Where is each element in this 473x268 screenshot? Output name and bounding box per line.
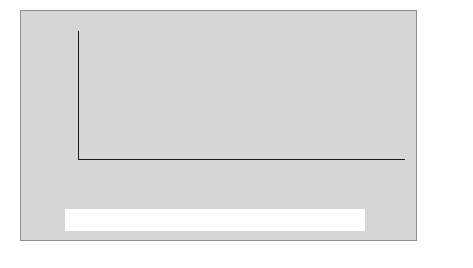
chart-figure <box>20 10 417 241</box>
chart-legend <box>65 209 365 231</box>
y-axis-tick-labels <box>21 11 70 242</box>
bar-series-group <box>79 32 404 159</box>
x-axis-tick-marks <box>79 160 404 164</box>
x-axis-tick-labels <box>79 165 404 205</box>
